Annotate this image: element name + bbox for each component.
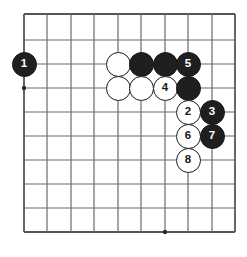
stone-white[interactable] — [106, 76, 131, 101]
stone-white-move-2[interactable]: 2 — [176, 100, 201, 125]
stone-move-number: 2 — [185, 106, 191, 118]
stone-white[interactable] — [106, 52, 131, 77]
stone-move-number: 8 — [185, 154, 191, 166]
stone-white-move-6[interactable]: 6 — [176, 124, 201, 149]
stone-move-number: 4 — [162, 82, 168, 94]
stone-black[interactable] — [176, 76, 201, 101]
stone-move-number: 6 — [185, 130, 191, 142]
stone-black-move-1[interactable]: 1 — [12, 52, 37, 77]
stone-move-number: 3 — [209, 106, 215, 118]
stone-black-move-3[interactable]: 3 — [200, 100, 225, 125]
stone-layer: 15423678 — [0, 0, 247, 257]
stone-white-move-4[interactable]: 4 — [153, 76, 178, 101]
stone-black-move-5[interactable]: 5 — [176, 52, 201, 77]
stone-black[interactable] — [129, 52, 154, 77]
stone-white[interactable] — [129, 76, 154, 101]
stone-move-number: 1 — [21, 58, 27, 70]
stone-move-number: 5 — [185, 58, 191, 70]
stone-black-move-7[interactable]: 7 — [200, 124, 225, 149]
go-board-diagram: 15423678 — [0, 0, 247, 257]
stone-move-number: 7 — [209, 130, 215, 142]
stone-white-move-8[interactable]: 8 — [176, 148, 201, 173]
stone-black[interactable] — [153, 52, 178, 77]
